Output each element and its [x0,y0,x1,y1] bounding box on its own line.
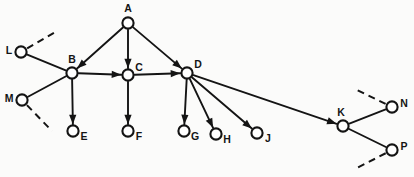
node-F[interactable] [122,125,133,136]
dashed-edges-layer [27,31,386,168]
node-label-D: D [194,58,202,70]
arrowhead-D-K [326,117,336,124]
node-label-H: H [223,133,231,145]
node-label-P: P [400,140,407,152]
node-B[interactable] [66,67,77,78]
dashed-edge-P-lower-dashed [357,153,386,168]
edge-K-N [349,109,385,123]
node-label-J: J [265,132,271,144]
node-C[interactable] [122,69,133,80]
arrowheads-layer [69,59,336,129]
edge-K-P [349,129,386,147]
node-N[interactable] [386,101,397,112]
node-L[interactable] [15,46,26,57]
dashed-edge-L-upper-dashed [27,31,57,48]
node-K[interactable] [337,120,348,131]
node-label-K: K [337,106,345,118]
node-M[interactable] [16,94,27,105]
edge-L-B [27,55,65,71]
dashed-edge-N-upper-dashed [357,90,386,104]
node-label-B: B [68,53,76,65]
node-A[interactable] [122,17,133,28]
graph-canvas: ABCDEFGHJKLMNP [0,0,414,177]
arrowhead-A-C [124,59,131,68]
node-G[interactable] [178,125,189,136]
node-H[interactable] [210,128,221,139]
node-E[interactable] [67,125,78,136]
node-label-L: L [6,44,13,56]
node-label-G: G [191,130,199,142]
node-label-E: E [80,130,87,142]
node-label-N: N [400,97,408,109]
node-D[interactable] [181,67,192,78]
node-label-M: M [5,92,14,104]
arrowhead-B-C [112,71,122,78]
node-label-F: F [136,130,143,142]
node-P[interactable] [386,144,397,155]
arrowhead-B-E [69,115,76,125]
dashed-edge-M-lower-dashed [27,105,52,131]
edge-M-B [28,76,66,97]
arrowhead-C-D [171,70,181,77]
graph-diagram: ABCDEFGHJKLMNP [0,0,414,177]
edge-D-K [193,75,336,124]
arrowhead-D-H [206,118,213,128]
node-label-A: A [124,2,132,14]
arrowhead-C-F [124,115,131,125]
arrowhead-D-G [181,115,188,125]
node-J[interactable] [251,127,262,138]
node-label-C: C [135,61,143,73]
